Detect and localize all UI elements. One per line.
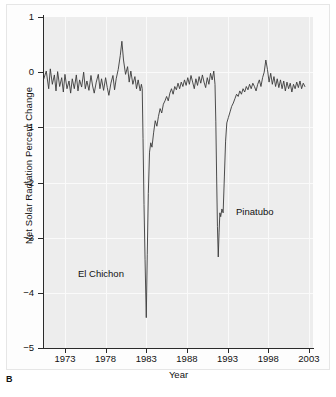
x-tick-label: 1978: [86, 354, 126, 364]
y-tick-label: −5: [0, 343, 34, 353]
annotation-pinatubo: Pinatubo: [236, 206, 274, 217]
annotation-el-chichon: El Chichon: [78, 268, 124, 279]
x-tick-label: 2003: [289, 354, 329, 364]
x-axis-title: Year: [43, 369, 314, 380]
y-axis-title: Net Solar Radiation Percent Change: [23, 21, 34, 311]
figure-panel-b: 10−1−2−3−4−5 197319781983198819931998200…: [0, 0, 336, 397]
panel-letter-label: B: [6, 374, 13, 384]
x-tick-label: 1983: [126, 354, 166, 364]
x-tick-label: 1993: [208, 354, 248, 364]
x-tick-label: 1988: [167, 354, 207, 364]
x-tick-label: 1998: [248, 354, 288, 364]
data-series-line: [43, 17, 314, 349]
x-tick-label: 1973: [45, 354, 85, 364]
